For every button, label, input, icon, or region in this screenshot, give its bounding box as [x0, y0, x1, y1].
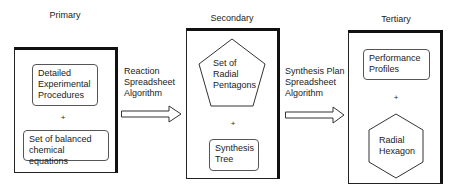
- balanced-equations-box: Set of balanced chemical equations: [23, 130, 109, 161]
- hexagon-line-1: Radial: [379, 135, 415, 146]
- plus-sign: +: [228, 119, 238, 128]
- performance-profiles-line-1: Performance: [369, 53, 424, 64]
- stage-label-secondary: Secondary: [197, 13, 267, 23]
- plus-sign: +: [58, 113, 68, 122]
- pentagon-line-1: Set of: [213, 58, 256, 69]
- right-arrow-icon: [285, 106, 347, 124]
- arrow-2-line-3: Algorithm: [285, 88, 345, 99]
- detailed-procedures-line-1: Detailed: [38, 68, 92, 79]
- hexagon-line-2: Hexagon: [379, 146, 415, 157]
- pentagon-text: Set of Radial Pentagons: [213, 58, 256, 91]
- detailed-procedures-box: Detailed Experimental Procedures: [32, 64, 98, 106]
- pentagon-line-2: Radial: [213, 69, 256, 80]
- stage-label-primary: Primary: [30, 10, 100, 20]
- detailed-procedures-line-2: Experimental: [38, 79, 92, 90]
- synthesis-tree-box: Synthesis Tree: [209, 139, 259, 171]
- detailed-procedures-line-3: Procedures: [38, 90, 92, 101]
- performance-profiles-box: Performance Profiles: [363, 49, 430, 80]
- performance-profiles-line-2: Profiles: [369, 64, 424, 75]
- synthesis-tree-line-1: Synthesis: [215, 143, 253, 154]
- synthesis-tree-line-2: Tree: [215, 154, 253, 165]
- balanced-equations-line-1: Set of balanced: [29, 134, 103, 145]
- arrow-1-line-1: Reaction: [124, 66, 175, 77]
- plus-sign: +: [391, 93, 401, 102]
- right-arrow-icon: [121, 105, 183, 123]
- reaction-spreadsheet-label: Reaction Spreadsheet Algorithm: [124, 66, 175, 99]
- balanced-equations-line-2: chemical equations: [29, 145, 103, 167]
- arrow-2-line-1: Synthesis Plan: [285, 66, 345, 77]
- stage-label-tertiary: Tertiary: [361, 14, 431, 24]
- arrow-2-line-2: Spreadsheet: [285, 77, 345, 88]
- arrow-1-line-2: Spreadsheet: [124, 77, 175, 88]
- synthesis-plan-spreadsheet-label: Synthesis Plan Spreadsheet Algorithm: [285, 66, 345, 99]
- pentagon-line-3: Pentagons: [213, 80, 256, 91]
- hexagon-text: Radial Hexagon: [379, 135, 415, 157]
- arrow-1-line-3: Algorithm: [124, 88, 175, 99]
